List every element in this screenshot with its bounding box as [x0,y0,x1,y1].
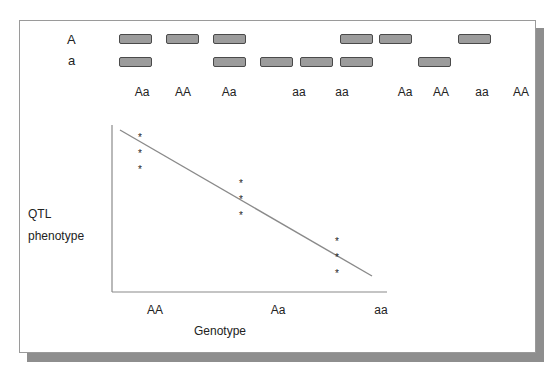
x-tick-label: Aa [271,303,286,317]
qtl-plot [0,0,560,375]
x-axis-label: Genotype [194,324,246,338]
data-point-star: * [335,253,339,263]
data-point-star: * [335,237,339,247]
data-point-star: * [138,149,142,159]
y-axis-label-line1: QTL [28,203,84,225]
x-tick-label: aa [374,303,387,317]
data-point-star: * [239,179,243,189]
data-point-star: * [335,269,339,279]
x-tick-label: AA [147,303,163,317]
y-axis-label: QTL phenotype [28,203,84,247]
data-point-star: * [239,195,243,205]
data-point-star: * [138,133,142,143]
data-point-star: * [138,165,142,175]
data-point-star: * [239,211,243,221]
y-axis-label-line2: phenotype [28,225,84,247]
